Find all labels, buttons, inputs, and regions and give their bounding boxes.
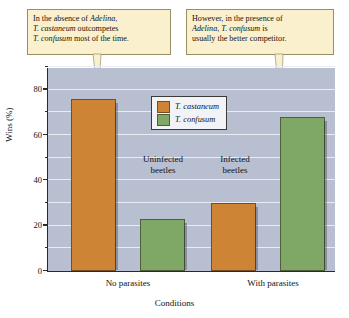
bar-shadow <box>115 103 118 270</box>
callout-right-line1-pre: However, in the presence of <box>192 14 283 23</box>
y-axis-title: Wins (%) <box>4 108 14 142</box>
callout-left-line3-italic: T. confusum <box>33 34 72 43</box>
figure-container: In the absence of Adelina, T. castaneum … <box>0 0 349 318</box>
x-tick-label-no-parasites: No parasites <box>78 278 178 288</box>
callout-right-line3-post: usually the better competitor. <box>192 34 286 43</box>
tick-major-80 <box>43 88 48 90</box>
bar-no-parasites-confusum[interactable] <box>140 219 185 271</box>
annotation-uninfected-line1: Uninfected <box>143 154 183 164</box>
callout-right-line3: usually the better competitor. <box>192 34 328 44</box>
legend-label-confusum: T. confusum <box>175 115 215 124</box>
y-tick-label-80: 80 <box>24 85 42 94</box>
callout-left-line2-italic: T. castaneum <box>33 24 76 33</box>
y-tick-label-40: 40 <box>24 176 42 185</box>
bar-shadow <box>324 121 327 270</box>
legend-item-confusum[interactable]: T. confusum <box>157 113 219 126</box>
annotation-infected-line1: Infected <box>220 154 249 164</box>
callout-right-line2-post: is <box>260 24 267 33</box>
callout-right-line2-italic-b: T. confusum <box>221 24 260 33</box>
tick-major-60 <box>43 134 48 136</box>
y-tick-label-0: 0 <box>24 267 42 276</box>
tick-major-0 <box>43 270 48 272</box>
tick-minor-70 <box>45 111 48 112</box>
y-tick-label-60: 60 <box>24 131 42 140</box>
bar-no-parasites-castaneum[interactable] <box>71 99 116 271</box>
tick-minor-50 <box>45 157 48 158</box>
callout-left-line1-pre: In the absence of <box>33 14 90 23</box>
annotation-uninfected-beetles: Uninfected beetles <box>126 154 200 176</box>
tick-major-40 <box>43 179 48 181</box>
tick-major-20 <box>43 224 48 226</box>
callout-left-line2-post: outcompetes <box>76 24 119 33</box>
callout-right-line1: However, in the presence of <box>192 14 328 24</box>
annotation-infected-line2: beetles <box>223 165 248 175</box>
annotation-uninfected-line2: beetles <box>151 165 176 175</box>
plot-area: 0 20 40 60 80 Uninfected beetles Infecte… <box>47 68 335 272</box>
tick-minor-10 <box>45 247 48 248</box>
callout-left-line3-post: most of the time. <box>72 34 129 43</box>
callout-left-line1-post: , <box>115 14 117 23</box>
bar-shadow <box>184 223 187 270</box>
callout-left: In the absence of Adelina, T. castaneum … <box>27 9 171 55</box>
gridline-80 <box>48 89 335 90</box>
bar-with-parasites-confusum[interactable] <box>280 117 325 271</box>
annotation-infected-beetles: Infected beetles <box>200 154 270 176</box>
bar-with-parasites-castaneum[interactable] <box>211 203 256 271</box>
legend-item-castaneum[interactable]: T. castaneum <box>157 100 219 113</box>
x-axis-title: Conditions <box>0 298 349 308</box>
tick-minor-90 <box>45 66 48 67</box>
callout-left-line1-italic: Adelina <box>90 14 115 23</box>
callout-left-line3: T. confusum most of the time. <box>33 34 165 44</box>
gridline-90 <box>48 66 335 67</box>
legend: T. castaneum T. confusum <box>151 96 227 130</box>
callout-right: However, in the presence of Adelina, T. … <box>186 9 334 55</box>
x-tick-label-with-parasites: With parasites <box>218 278 328 288</box>
y-tick-label-20: 20 <box>24 221 42 230</box>
legend-swatch-castaneum-icon <box>157 101 170 113</box>
legend-swatch-confusum-icon <box>157 114 170 126</box>
callout-right-line2: Adelina, T. confusum is <box>192 24 328 34</box>
tick-minor-30 <box>45 202 48 203</box>
callout-right-line2-italic-a: Adelina <box>192 24 217 33</box>
callout-left-line1: In the absence of Adelina, <box>33 14 165 24</box>
callout-left-line2: T. castaneum outcompetes <box>33 24 165 34</box>
legend-label-castaneum: T. castaneum <box>175 102 219 111</box>
bar-shadow <box>255 207 258 270</box>
